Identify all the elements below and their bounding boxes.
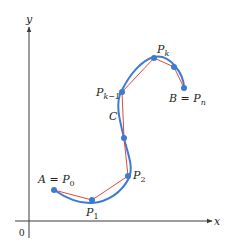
label-p0: A = P0 [37, 173, 75, 188]
label-p2: P2 [132, 169, 146, 184]
label-pk: Pk [156, 43, 169, 58]
point-pn [181, 85, 187, 91]
label-pk-minus-1: Pk−1 [95, 86, 120, 101]
y-axis-label: y [25, 13, 33, 26]
point-mid [121, 135, 127, 141]
axes: x y 0 [15, 13, 221, 238]
point-p2 [125, 173, 131, 179]
point-p1 [89, 197, 95, 203]
label-pn: B = Pn [168, 92, 206, 107]
arc-length-diagram: x y 0 A = P0 P1 P2 C Pk−1 Pk [0, 0, 226, 250]
label-curve-c: C [109, 110, 118, 123]
point-p0 [51, 187, 57, 193]
x-axis-label: x [214, 215, 221, 228]
origin-label: 0 [19, 226, 25, 238]
label-p1: P1 [85, 206, 99, 221]
point-pk-plus-1 [171, 64, 177, 70]
